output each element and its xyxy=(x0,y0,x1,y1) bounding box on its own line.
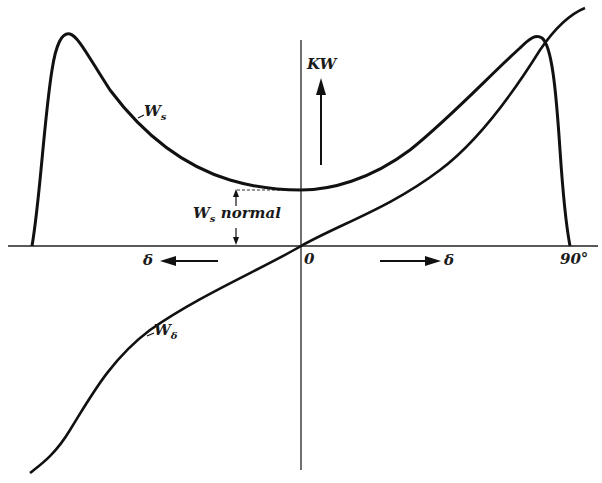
y-axis-label: KW xyxy=(307,57,336,72)
right-limit-label: 90° xyxy=(560,252,588,267)
delta-left-label: δ xyxy=(143,253,153,268)
delta-right-label: δ xyxy=(444,253,454,268)
ws-normal-label: Ws normal xyxy=(193,206,281,221)
diagram-canvas xyxy=(0,0,602,483)
origin-label: 0 xyxy=(304,252,314,267)
wdelta-curve xyxy=(30,8,585,473)
kw-up-arrow-icon xyxy=(316,78,326,165)
wdelta-curve-label: Wδ xyxy=(154,323,178,338)
ws-curve-label: Ws xyxy=(144,104,167,119)
wdelta-label-tick xyxy=(147,333,154,336)
delta-left-arrow-icon xyxy=(160,256,218,266)
delta-right-arrow-icon xyxy=(380,256,441,266)
